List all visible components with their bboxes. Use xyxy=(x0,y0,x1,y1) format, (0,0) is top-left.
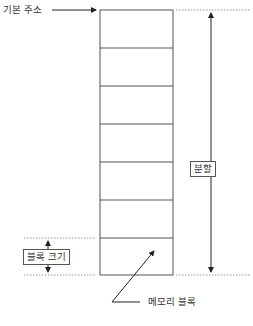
memory-stack xyxy=(100,10,173,275)
memory-block-label: 메모리 블록 xyxy=(148,297,196,307)
partition-label: 분할 xyxy=(190,161,216,177)
base-address-label: 기본 주소 xyxy=(3,5,42,15)
block-size-label: 블록 크기 xyxy=(23,249,70,265)
